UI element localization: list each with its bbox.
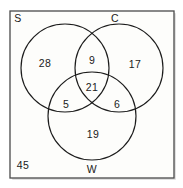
set-label-w: W (87, 163, 97, 175)
region-value-all-three: 21 (86, 81, 98, 93)
set-label-s: S (14, 12, 21, 24)
region-value-c-only: 17 (129, 58, 141, 70)
region-value-c-and-w: 6 (114, 98, 120, 110)
region-value-outside: 45 (17, 159, 29, 171)
region-value-w-only: 19 (87, 128, 99, 140)
region-value-s-only: 28 (39, 57, 51, 69)
venn-diagram-canvas: S C W 28 17 9 21 5 6 19 45 (0, 0, 183, 188)
venn-diagram: S C W 28 17 9 21 5 6 19 45 (0, 0, 183, 188)
region-value-s-and-w: 5 (63, 98, 69, 110)
region-value-s-and-c: 9 (89, 54, 95, 66)
set-label-c: C (111, 12, 119, 24)
